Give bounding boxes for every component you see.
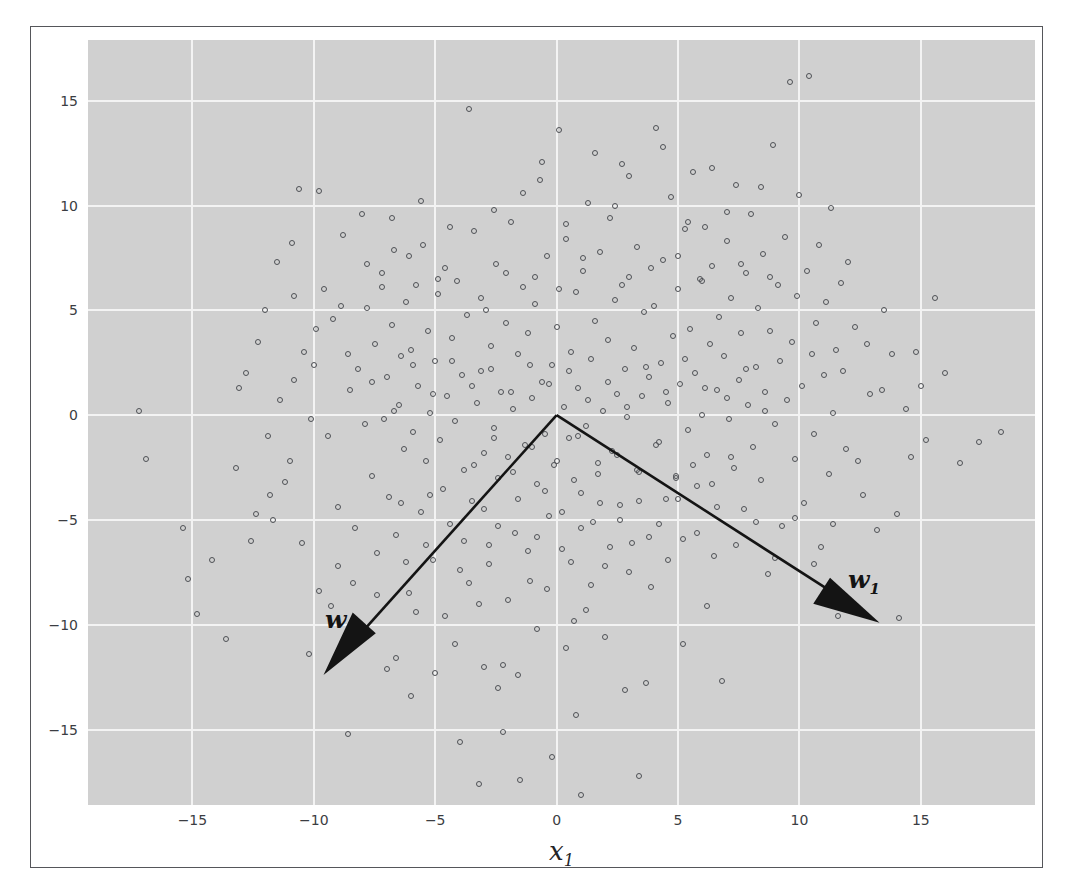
gridline-vertical xyxy=(920,40,922,805)
scatter-point xyxy=(648,584,654,590)
scatter-point xyxy=(410,429,416,435)
scatter-point xyxy=(546,381,552,387)
scatter-point xyxy=(731,465,737,471)
gridline-vertical xyxy=(191,40,193,805)
scatter-point xyxy=(442,613,448,619)
scatter-point xyxy=(389,215,395,221)
scatter-point xyxy=(505,454,511,460)
scatter-point xyxy=(673,475,679,481)
gridline-vertical xyxy=(434,40,436,805)
scatter-point xyxy=(575,433,581,439)
scatter-point xyxy=(527,578,533,584)
scatter-point xyxy=(760,251,766,257)
scatter-point xyxy=(575,385,581,391)
scatter-point xyxy=(578,792,584,798)
x-tick-label: −10 xyxy=(274,812,354,828)
scatter-point xyxy=(364,630,370,636)
scatter-point xyxy=(236,385,242,391)
scatter-point xyxy=(804,268,810,274)
scatter-point xyxy=(306,651,312,657)
scatter-point xyxy=(699,278,705,284)
scatter-point xyxy=(896,615,902,621)
y-axis-ticks: −15−10−5051015 xyxy=(14,40,78,805)
scatter-point xyxy=(345,731,351,737)
vector-label-w1: w1 xyxy=(848,565,880,598)
scatter-point xyxy=(823,299,829,305)
scatter-point xyxy=(675,496,681,502)
scatter-point xyxy=(643,680,649,686)
scatter-point xyxy=(432,670,438,676)
scatter-point xyxy=(529,395,535,401)
gridline-vertical xyxy=(677,40,679,805)
scatter-point xyxy=(527,362,533,368)
scatter-point xyxy=(617,502,623,508)
scatter-point xyxy=(418,509,424,515)
scatter-point xyxy=(600,408,606,414)
scatter-point xyxy=(440,486,446,492)
scatter-point xyxy=(493,261,499,267)
scatter-point xyxy=(889,351,895,357)
scatter-point xyxy=(733,542,739,548)
y-tick-label: 0 xyxy=(20,407,78,423)
scatter-point xyxy=(316,188,322,194)
gridline-horizontal xyxy=(88,414,1035,416)
scatter-point xyxy=(624,414,630,420)
scatter-point xyxy=(590,519,596,525)
scatter-point xyxy=(932,295,938,301)
scatter-point xyxy=(580,255,586,261)
scatter-point xyxy=(408,693,414,699)
scatter-point xyxy=(430,557,436,563)
scatter-point xyxy=(410,362,416,368)
plot-area xyxy=(88,40,1035,805)
scatter-point xyxy=(403,299,409,305)
scatter-point xyxy=(350,580,356,586)
scatter-point xyxy=(830,521,836,527)
scatter-point xyxy=(957,460,963,466)
scatter-point xyxy=(646,374,652,380)
scatter-point xyxy=(522,442,528,448)
scatter-point xyxy=(525,330,531,336)
scatter-point xyxy=(352,525,358,531)
scatter-point xyxy=(418,198,424,204)
gridline-horizontal xyxy=(88,100,1035,102)
scatter-point xyxy=(287,458,293,464)
scatter-point xyxy=(724,238,730,244)
scatter-point xyxy=(794,293,800,299)
scatter-point xyxy=(702,385,708,391)
scatter-point xyxy=(792,515,798,521)
scatter-point xyxy=(255,339,261,345)
scatter-point xyxy=(976,439,982,445)
scatter-point xyxy=(792,456,798,462)
scatter-point xyxy=(444,393,450,399)
scatter-point xyxy=(636,773,642,779)
scatter-point xyxy=(563,221,569,227)
scatter-point xyxy=(508,219,514,225)
scatter-point xyxy=(656,521,662,527)
scatter-point xyxy=(694,530,700,536)
scatter-point xyxy=(592,150,598,156)
scatter-point xyxy=(653,125,659,131)
scatter-point xyxy=(335,563,341,569)
scatter-point xyxy=(435,291,441,297)
scatter-point xyxy=(469,383,475,389)
vector-overlay xyxy=(88,40,1035,805)
scatter-point xyxy=(685,427,691,433)
scatter-point xyxy=(415,383,421,389)
scatter-point xyxy=(675,286,681,292)
scatter-point xyxy=(568,349,574,355)
gridline-vertical xyxy=(313,40,315,805)
scatter-point xyxy=(559,546,565,552)
scatter-point xyxy=(588,582,594,588)
scatter-point xyxy=(512,530,518,536)
figure-canvas: w0 w1 −15−10−5051015 −15−10−5051015 x1 xyxy=(0,0,1073,895)
x-tick-label: 0 xyxy=(517,812,597,828)
scatter-point xyxy=(605,379,611,385)
scatter-point xyxy=(913,349,919,355)
scatter-point xyxy=(682,226,688,232)
y-tick-label: −10 xyxy=(20,617,78,633)
scatter-point xyxy=(767,328,773,334)
scatter-point xyxy=(534,534,540,540)
scatter-point xyxy=(379,284,385,290)
scatter-point xyxy=(573,712,579,718)
scatter-point xyxy=(614,391,620,397)
